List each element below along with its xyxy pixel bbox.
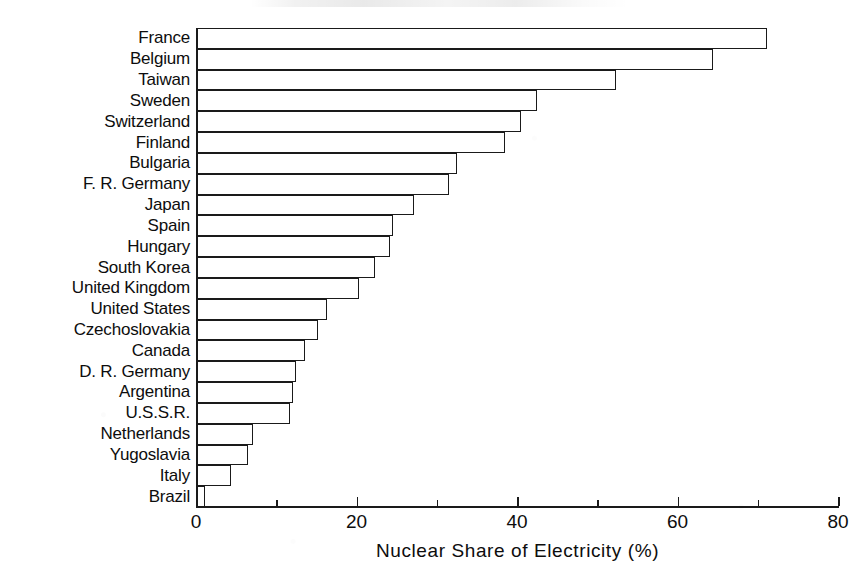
- plot-area: [196, 28, 838, 507]
- x-tick-major: [357, 497, 359, 506]
- bar: [196, 215, 393, 236]
- bar: [196, 445, 248, 466]
- category-label: F. R. Germany: [0, 175, 190, 192]
- bar: [196, 70, 616, 91]
- bar: [196, 424, 253, 445]
- category-label: Japan: [0, 196, 190, 213]
- x-tick-label: 20: [327, 512, 387, 531]
- bar: [196, 132, 505, 153]
- bar: [196, 320, 318, 341]
- category-label: Italy: [0, 467, 190, 484]
- bar: [196, 257, 375, 278]
- category-label: Belgium: [0, 50, 190, 67]
- category-label: Bulgaria: [0, 154, 190, 171]
- category-label: Hungary: [0, 238, 190, 255]
- bar: [196, 465, 231, 486]
- category-label: Finland: [0, 134, 190, 151]
- bar: [196, 90, 537, 111]
- category-label: Sweden: [0, 92, 190, 109]
- bar: [196, 278, 359, 299]
- bar: [196, 340, 305, 361]
- bar: [196, 49, 713, 70]
- bar: [196, 382, 293, 403]
- category-label: D. R. Germany: [0, 363, 190, 380]
- bar: [196, 361, 296, 382]
- category-label: Spain: [0, 217, 190, 234]
- bar: [196, 111, 521, 132]
- nuclear-share-bar-chart: FranceBelgiumTaiwanSwedenSwitzerlandFinl…: [0, 0, 862, 576]
- scan-artifact-strip: [250, 0, 630, 7]
- category-label: United States: [0, 300, 190, 317]
- x-tick-major: [517, 497, 519, 506]
- x-tick-label: 40: [487, 512, 547, 531]
- category-axis-labels: FranceBelgiumTaiwanSwedenSwitzerlandFinl…: [0, 28, 190, 507]
- bar: [196, 403, 290, 424]
- category-label: France: [0, 29, 190, 46]
- category-label: Netherlands: [0, 425, 190, 442]
- category-label: Yugoslavia: [0, 446, 190, 463]
- category-label: Canada: [0, 342, 190, 359]
- x-tick-minor: [437, 500, 439, 506]
- x-tick-label: 60: [648, 512, 708, 531]
- bar: [196, 236, 390, 257]
- category-label: Brazil: [0, 488, 190, 505]
- bar: [196, 195, 414, 216]
- category-label: Argentina: [0, 383, 190, 400]
- bar: [196, 174, 449, 195]
- x-tick-minor: [758, 500, 760, 506]
- category-label: Czechoslovakia: [0, 321, 190, 338]
- y-axis-line: [196, 28, 198, 507]
- x-tick-label: 80: [808, 512, 862, 531]
- category-label: Switzerland: [0, 113, 190, 130]
- x-tick-major: [196, 497, 198, 506]
- category-label: Taiwan: [0, 71, 190, 88]
- x-axis-line: [196, 506, 839, 508]
- x-axis-title: Nuclear Share of Electricity (%): [196, 541, 839, 561]
- category-label: U.S.S.R.: [0, 404, 190, 421]
- bar: [196, 299, 327, 320]
- x-tick-major: [678, 497, 680, 506]
- x-tick-minor: [276, 500, 278, 506]
- bar: [196, 153, 457, 174]
- bar: [196, 28, 767, 49]
- category-label: United Kingdom: [0, 279, 190, 296]
- category-label: South Korea: [0, 259, 190, 276]
- x-tick-minor: [597, 500, 599, 506]
- x-tick-label: 0: [166, 512, 226, 531]
- x-tick-major: [838, 497, 840, 506]
